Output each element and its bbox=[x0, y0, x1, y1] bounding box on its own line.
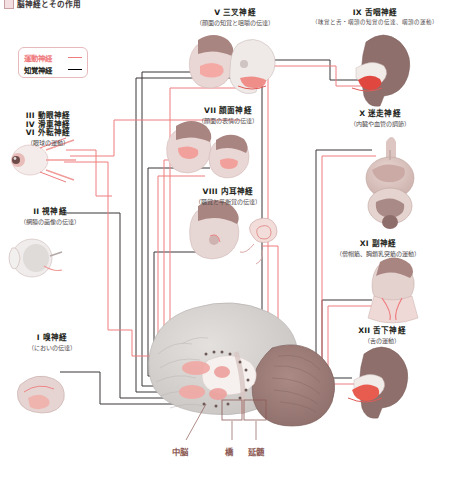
nerve-label-vii: VII 顔面神経 （顔面の表情の伝達） bbox=[163, 107, 293, 124]
nerve-sub-ix: （味覚と舌・咽頭の知覚の伝達、咽頭の運動） bbox=[300, 19, 450, 25]
nerve-title-ii: II 視神経 bbox=[0, 208, 100, 217]
nerve-sub-x: （内臓や血管の調節） bbox=[318, 120, 442, 127]
inner-ear-illustration bbox=[190, 200, 277, 264]
nerve-title-xii: XII 舌下神経 bbox=[322, 327, 442, 336]
nerve-sub-viii: （聴覚と平衡覚の伝達） bbox=[163, 198, 293, 205]
facial-expression-illustration bbox=[167, 121, 249, 178]
nerve-sub-v: （顔面の知覚と咀嚼の伝達） bbox=[171, 19, 299, 26]
nerve-title-vii: VII 顔面神経 bbox=[163, 107, 293, 116]
nerve-title-ix: IX 舌咽神経 bbox=[300, 9, 450, 18]
nerve-label-ix: IX 舌咽神経 （味覚と舌・咽頭の知覚の伝達、咽頭の運動） bbox=[300, 9, 450, 25]
nerve-label-viii: VIII 内耳神経 （聴覚と平衡覚の伝達） bbox=[163, 188, 293, 205]
nerve-sub-xi: （僧帽筋、胸鎖乳突筋の運動） bbox=[310, 250, 446, 257]
nerve-title-viii: VIII 内耳神経 bbox=[163, 188, 293, 197]
face-and-skull-illustration bbox=[189, 35, 275, 94]
nerve-title-xi: XI 副神経 bbox=[310, 240, 446, 249]
diagram-canvas: 脳神経とその作用 bbox=[0, 0, 450, 480]
nasal-cavity-illustration bbox=[17, 376, 64, 413]
brain-region-label-medulla: 延髄 bbox=[248, 445, 264, 457]
nerve-label-i: I 嗅神経 （においの伝達） bbox=[0, 334, 104, 351]
legend-row-sensory: 知覚神経 bbox=[24, 63, 82, 75]
nerve-title-v: V 三叉神経 bbox=[171, 9, 299, 18]
tongue-pharynx-illustration bbox=[352, 35, 410, 106]
nerve-sub-xii: （舌の運動） bbox=[322, 337, 442, 344]
tongue-motion-illustration bbox=[348, 347, 408, 418]
internal-organs-illustration bbox=[366, 137, 414, 229]
legend-sensory-label: 知覚神経 bbox=[24, 64, 52, 75]
nerve-title-x: X 迷走神経 bbox=[318, 110, 442, 119]
eyeball-retina-illustration bbox=[9, 239, 62, 277]
nerve-sub-iii-iv-vi: （眼球の運動） bbox=[0, 139, 96, 146]
nerve-sub-vii: （顔面の表情の伝達） bbox=[163, 117, 293, 124]
nerve-title-vi: VI 外転神経 bbox=[0, 129, 96, 138]
nerve-label-iii-iv-vi: III 動眼神経 IV 滑車神経 VI 外転神経 （眼球の運動） bbox=[0, 112, 96, 146]
legend-row-motor: 運動神経 bbox=[24, 51, 82, 63]
brain-region-label-midbrain: 中脳 bbox=[172, 445, 188, 457]
nerve-sub-i: （においの伝達） bbox=[0, 344, 104, 351]
line-swatch-icon bbox=[68, 69, 82, 70]
legend-motor-label: 運動神経 bbox=[24, 52, 52, 63]
line-swatch-icon bbox=[68, 57, 82, 58]
sagittal-brain-illustration bbox=[149, 303, 335, 440]
nerve-label-x: X 迷走神経 （内臓や血管の調節） bbox=[318, 110, 442, 127]
nerve-sub-ii: （網膜の画像の伝達） bbox=[0, 218, 100, 225]
nerve-label-v: V 三叉神経 （顔面の知覚と咀嚼の伝達） bbox=[171, 9, 299, 26]
brain-region-label-pons: 橋 bbox=[225, 445, 233, 457]
nerve-label-xi: XI 副神経 （僧帽筋、胸鎖乳突筋の運動） bbox=[310, 240, 446, 257]
nerve-title-i: I 嗅神経 bbox=[0, 334, 104, 343]
legend-box: 運動神経 知覚神経 bbox=[18, 47, 88, 78]
nerve-label-xii: XII 舌下神経 （舌の運動） bbox=[322, 327, 442, 344]
nerve-label-ii: II 視神経 （網膜の画像の伝達） bbox=[0, 208, 100, 225]
neck-shoulder-muscles-illustration bbox=[368, 257, 418, 323]
